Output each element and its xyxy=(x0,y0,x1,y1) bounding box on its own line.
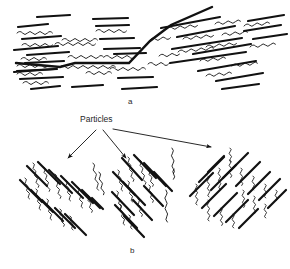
figure-root: Particles a b xyxy=(0,0,290,269)
particles-label: Particles xyxy=(80,115,113,124)
panel-b-caption: b xyxy=(130,247,134,255)
microstructure-diagram xyxy=(0,0,290,269)
panel-a-caption: a xyxy=(128,98,132,106)
